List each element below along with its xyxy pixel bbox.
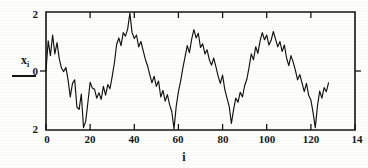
x-tick-label-100: 100 — [259, 133, 276, 145]
x-axis-title: i — [0, 150, 368, 165]
x-axis-ticks — [46, 12, 355, 130]
y-tick-label-top: 2 — [16, 8, 38, 20]
x-tick-label-120: 120 — [303, 133, 320, 145]
x-tick-label-80: 80 — [218, 133, 229, 145]
x-tick-label-40: 40 — [129, 133, 140, 145]
y-tick-label-bottom: 2 — [16, 123, 38, 135]
y-tick-label-zero: 0 — [16, 65, 38, 77]
x-tick-label-0: 0 — [44, 133, 50, 145]
plot-frame — [46, 12, 355, 130]
x-tick-label-140: 14 — [352, 133, 363, 145]
x-tick-label-20: 20 — [85, 133, 96, 145]
series-line-x-i — [46, 13, 329, 129]
x-tick-label-60: 60 — [173, 133, 184, 145]
figure-panel: xi 2 0 2 0 20 40 60 80 100 120 14 i — [0, 0, 368, 168]
